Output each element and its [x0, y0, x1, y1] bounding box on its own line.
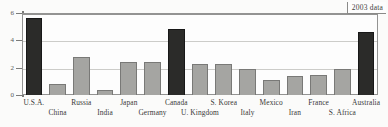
x-label-s-korea: S. Korea [196, 98, 251, 107]
bar-u-s-a [26, 18, 43, 95]
x-label-australia: Australia [339, 98, 388, 107]
y-tick-label-4: 4 [0, 36, 14, 44]
x-label-mexico: Mexico [244, 98, 299, 107]
bar-chart: 6 4 2 0 2003 data U.S.A.ChinaRussiaIndia… [0, 0, 388, 127]
bar-s-africa [334, 69, 351, 95]
x-label-canada: Canada [149, 98, 204, 107]
bar-canada [168, 29, 185, 95]
x-label-japan: Japan [102, 98, 157, 107]
bars-container [22, 13, 378, 95]
bar-china [49, 84, 66, 95]
x-label-russia: Russia [54, 98, 109, 107]
annotation-2003-data: 2003 data [347, 2, 386, 14]
x-label-italy: Italy [220, 108, 275, 117]
bar-germany [144, 62, 161, 95]
bar-u-kingdom [192, 64, 209, 95]
bar-australia [358, 32, 375, 95]
x-label-germany: Germany [125, 108, 180, 117]
x-label-s-africa: S. Africa [315, 108, 370, 117]
bar-iran [287, 76, 304, 95]
bar-russia [73, 57, 90, 95]
x-axis-labels: U.S.A.ChinaRussiaIndiaJapanGermanyCanada… [22, 96, 378, 126]
y-tick-label-2: 2 [0, 64, 14, 72]
bar-france [310, 75, 327, 96]
bar-japan [120, 62, 137, 95]
bar-mexico [263, 80, 280, 95]
bar-india [97, 90, 114, 95]
x-label-india: India [78, 108, 133, 117]
bar-italy [239, 69, 256, 95]
y-tick-label-6: 6 [0, 9, 14, 17]
bar-s-korea [215, 64, 232, 95]
x-label-france: France [291, 98, 346, 107]
x-label-china: China [30, 108, 85, 117]
x-label-iran: Iran [268, 108, 323, 117]
x-label-u-s-a: U.S.A. [7, 98, 62, 107]
x-label-u-kingdom: U. Kingdom [173, 108, 228, 117]
